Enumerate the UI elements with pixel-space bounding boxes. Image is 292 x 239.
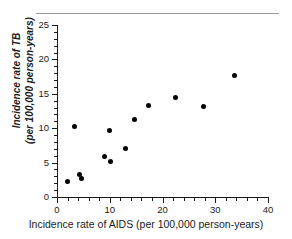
y-tick-minor [54,87,57,88]
y-tick-minor [54,183,57,184]
x-tick-label: 10 [98,205,122,215]
x-tick-minor [141,198,142,201]
x-tick-label: 40 [256,205,280,215]
x-tick-minor [205,198,206,201]
x-axis-title: Incidence rate of AIDS (per 100,000 pers… [0,218,292,230]
y-tick-minor [54,169,57,170]
x-tick-major [268,198,269,203]
y-tick-minor [54,156,57,157]
y-tick-major [52,163,57,164]
x-tick-label: 20 [151,205,175,215]
x-tick-major [110,198,111,203]
y-tick-minor [54,32,57,33]
data-point [102,154,107,159]
x-tick-minor [194,198,195,201]
y-tick-minor [54,149,57,150]
data-point [232,73,237,78]
y-tick-minor [54,142,57,143]
data-point [107,128,112,133]
y-tick-minor [54,53,57,54]
data-point [65,179,70,184]
x-tick-label: 0 [45,205,69,215]
y-tick-minor [54,114,57,115]
data-point [132,117,137,122]
x-tick-minor [120,198,121,201]
x-tick-minor [257,198,258,201]
x-tick-label: 30 [203,205,227,215]
y-tick-major [52,94,57,95]
y-tick-minor [54,101,57,102]
y-tick-major [52,128,57,129]
x-tick-major [163,198,164,203]
x-tick-minor [226,198,227,201]
figure-container: 0510152025 010203040 Incidence rate of T… [0,0,292,239]
x-tick-minor [236,198,237,201]
x-tick-minor [68,198,69,201]
data-point [79,176,84,181]
x-tick-minor [131,198,132,201]
y-tick-minor [54,108,57,109]
y-tick-minor [54,135,57,136]
y-tick-minor [54,121,57,122]
y-tick-major [52,59,57,60]
y-tick-minor [54,46,57,47]
y-tick-minor [54,73,57,74]
y-tick-label: 0 [29,192,49,202]
y-tick-minor [54,176,57,177]
y-tick-minor [54,39,57,40]
y-tick-minor [54,80,57,81]
y-axis-title: Incidence rate of TB (per 100,000 person… [11,0,36,165]
y-tick-minor [54,66,57,67]
x-tick-minor [152,198,153,201]
x-tick-major [215,198,216,203]
data-point [201,104,206,109]
x-tick-minor [89,198,90,201]
y-axis-line [57,25,58,198]
x-tick-minor [173,198,174,201]
plot-area: 0510152025 010203040 [0,0,292,239]
y-tick-minor [54,190,57,191]
x-tick-minor [247,198,248,201]
data-point [72,124,77,129]
data-point [173,95,178,100]
x-tick-minor [184,198,185,201]
x-tick-minor [99,198,100,201]
data-point [146,103,151,108]
y-axis-title-line1: Incidence rate of TB [11,33,22,129]
x-tick-major [57,198,58,203]
data-point [123,146,128,151]
y-tick-major [52,25,57,26]
x-tick-minor [78,198,79,201]
y-axis-title-line2: (per 100,000 person-years) [23,0,36,165]
data-point [108,159,113,164]
